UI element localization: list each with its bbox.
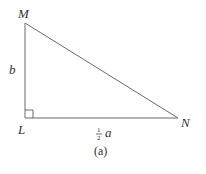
side-label-a: a [105,125,112,140]
side-label-b: b [9,62,16,77]
side-label-half-a: 1 2 a [96,125,112,142]
fraction-denominator: 2 [97,134,101,142]
right-angle-marker [25,110,33,118]
vertex-label-L: L [17,122,25,137]
vertex-label-M: M [17,6,30,21]
fraction-numerator: 1 [97,126,101,134]
vertex-label-N: N [180,115,191,130]
triangle-MLN [25,23,178,118]
right-triangle-diagram: M b L N 1 2 a (a) [0,0,206,174]
hypotenuse-MN [25,23,178,118]
figure-caption: (a) [94,144,107,158]
